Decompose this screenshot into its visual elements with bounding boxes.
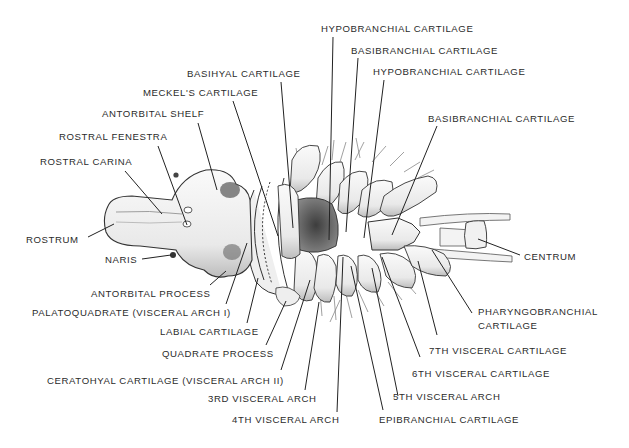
leader-line-antorbital-process (210, 271, 226, 285)
label-rostral-fenestra: ROSTRAL FENESTRA (59, 131, 167, 143)
label-rostral-carina: ROSTRAL CARINA (40, 156, 132, 168)
leader-line-hypobranchial-2 (364, 80, 384, 238)
leader-line-rostrum (88, 224, 114, 237)
leader-line-meckels (233, 101, 278, 236)
label-hypobranchial-cartilage-top: HYPOBRANCHIAL CARTILAGE (321, 23, 473, 35)
label-5th-visceral-arch: 5TH VISCERAL ARCH (393, 391, 500, 403)
leader-line-epibranchial (351, 266, 383, 410)
label-ceratohyal-cartilage: CERATOHYAL CARTILAGE (VISCERAL ARCH II) (47, 375, 284, 387)
leader-line-basibranchial-2 (392, 126, 437, 235)
label-rostrum: ROSTRUM (26, 234, 79, 246)
leader-line-palatoquadrate (226, 243, 247, 304)
label-centrum: CENTRUM (524, 251, 576, 263)
label-epibranchial-cartilage: EPIBRANCHIAL CARTILAGE (379, 414, 519, 426)
label-naris: NARIS (105, 254, 137, 266)
label-antorbital-shelf: ANTORBITAL SHELF (102, 108, 204, 120)
leader-line-basibranchial-1 (346, 58, 358, 232)
leader-line-fourth-arch (337, 257, 343, 412)
label-basibranchial-cartilage-posterior: BASIBRANCHIAL CARTILAGE (428, 113, 575, 125)
label-basibranchial-cartilage-top: BASIBRANCHIAL CARTILAGE (351, 45, 498, 57)
leader-line-labial (247, 278, 258, 323)
label-palatoquadrate: PALATOQUADRATE (VISCERAL ARCH I) (32, 307, 231, 319)
leader-line-quadrate-process (266, 301, 286, 345)
leader-line-third-arch (305, 302, 319, 390)
leader-line-basihyal (281, 82, 293, 228)
leader-line-sixth-visceral (382, 257, 420, 357)
leader-line-hypobranchial-1 (329, 37, 333, 240)
label-meckels-cartilage: MECKEL'S CARTILAGE (143, 87, 258, 99)
label-hypobranchial-cartilage-second: HYPOBRANCHIAL CARTILAGE (373, 66, 525, 78)
label-6th-visceral-cartilage: 6TH VISCERAL CARTILAGE (412, 368, 550, 380)
label-7th-visceral-cartilage: 7TH VISCERAL CARTILAGE (429, 345, 567, 357)
leader-line-antorbital-shelf (198, 123, 217, 190)
leader-line-centrum (478, 239, 520, 255)
leader-line-seventh-visceral (418, 261, 437, 335)
label-basihyal-cartilage: BASIHYAL CARTILAGE (187, 68, 301, 80)
leader-line-ceratohyal (281, 280, 310, 370)
leader-line-rostral-carina (125, 171, 162, 214)
leader-line-pharyngobranchial (432, 250, 472, 313)
anatomy-diagram: HYPOBRANCHIAL CARTILAGE BASIBRANCHIAL CA… (0, 0, 629, 448)
label-3rd-visceral-arch: 3RD VISCERAL ARCH (208, 393, 316, 405)
label-quadrate-process: QUADRATE PROCESS (162, 348, 274, 360)
label-antorbital-process: ANTORBITAL PROCESS (91, 288, 210, 300)
label-pharyngobranchial: PHARYNGOBRANCHIAL (478, 306, 598, 318)
leader-line-rostral-fenestra (158, 146, 187, 225)
label-4th-visceral-arch: 4TH VISCERAL ARCH (232, 414, 339, 426)
label-pharyngobranchial-line2: CARTILAGE (478, 320, 538, 332)
label-labial-cartilage: LABIAL CARTILAGE (160, 326, 259, 338)
leader-line-naris (142, 255, 171, 259)
